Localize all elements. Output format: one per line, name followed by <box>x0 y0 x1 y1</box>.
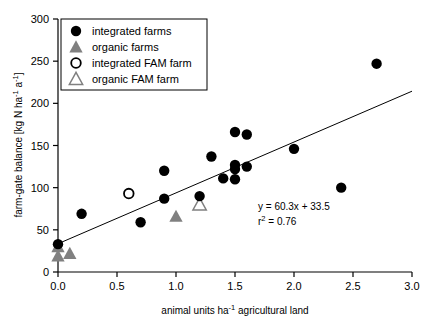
x-tick-label: 2.0 <box>286 280 301 292</box>
data-point <box>289 144 299 154</box>
x-axis-title: animal units ha-1 agricultural land <box>161 303 308 316</box>
data-point <box>336 182 346 192</box>
svg-text:animal units ha-1 agricultural: animal units ha-1 agricultural land <box>161 303 308 316</box>
data-point <box>194 191 204 201</box>
legend-marker <box>71 58 81 68</box>
x-tick-label: 1.0 <box>168 280 183 292</box>
y-tick-label: 100 <box>31 182 49 194</box>
legend-label: organic farms <box>92 41 159 53</box>
data-point <box>242 161 252 171</box>
data-point <box>124 189 134 199</box>
chart-legend: integrated farmsorganic farmsintegrated … <box>61 19 207 90</box>
data-point <box>159 193 169 203</box>
x-tick-label: 0.0 <box>50 280 65 292</box>
regression-equation: y = 60.3x + 33.5 <box>258 201 330 212</box>
x-tick-label: 0.5 <box>109 280 124 292</box>
legend-label: organic FAM farm <box>92 73 179 85</box>
data-point <box>371 58 381 68</box>
x-tick-label: 3.0 <box>404 280 419 292</box>
series-integrated-FAM-farm <box>124 189 134 199</box>
legend-marker <box>71 26 81 36</box>
x-tick-label: 1.5 <box>227 280 242 292</box>
y-tick-label: 150 <box>31 140 49 152</box>
data-point <box>206 151 216 161</box>
y-tick-label: 0 <box>43 266 49 278</box>
data-point <box>76 209 86 219</box>
y-tick-label: 50 <box>37 224 49 236</box>
y-tick-label: 250 <box>31 55 49 67</box>
data-point <box>159 166 169 176</box>
y-tick-label: 300 <box>31 13 49 25</box>
data-point <box>218 173 228 183</box>
legend-label: integrated FAM farm <box>92 57 192 69</box>
y-tick-label: 200 <box>31 97 49 109</box>
data-point <box>230 174 240 184</box>
data-point <box>230 160 240 170</box>
data-point <box>135 217 145 227</box>
x-tick-label: 2.5 <box>345 280 360 292</box>
data-point <box>230 127 240 137</box>
data-point <box>53 239 63 249</box>
chart-canvas: 0.00.51.01.52.02.53.0 050100150200250300… <box>0 0 431 327</box>
scatter-plot-figure: 0.00.51.01.52.02.53.0 050100150200250300… <box>0 0 431 327</box>
data-point <box>242 129 252 139</box>
legend-label: integrated farms <box>92 25 172 37</box>
